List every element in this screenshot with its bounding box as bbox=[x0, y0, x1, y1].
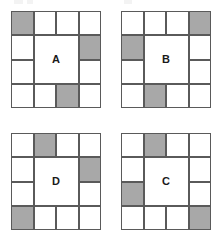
square-d-cell-r1c3-empty[interactable] bbox=[56, 133, 79, 157]
square-c-cell-r3c1-shaded[interactable] bbox=[121, 182, 144, 206]
square-c-cell-r1c3-empty[interactable] bbox=[166, 133, 189, 157]
square-b-label: B bbox=[162, 54, 170, 65]
square-panel-grid: ABDC bbox=[0, 0, 221, 244]
square-c-cell-r1c2-shaded[interactable] bbox=[144, 133, 167, 157]
figure-root: ABDC bbox=[0, 0, 221, 244]
square-b-cell-r3c1-empty[interactable] bbox=[121, 60, 144, 84]
square-b-cell-r3c4-empty[interactable] bbox=[189, 60, 212, 84]
square-a-cell-r1c4-empty[interactable] bbox=[79, 11, 102, 35]
square-b-cell-r2c4-empty[interactable] bbox=[189, 35, 212, 59]
square-c-label: C bbox=[162, 176, 170, 187]
square-b-center-block[interactable]: B bbox=[144, 35, 189, 84]
square-b-cell-r4c4-empty[interactable] bbox=[189, 84, 212, 108]
square-d-cell-r2c1-empty[interactable] bbox=[11, 157, 34, 181]
square-c-cell-r4c1-empty[interactable] bbox=[121, 206, 144, 230]
square-a-label: A bbox=[52, 54, 60, 65]
square-d-cell-r4c1-shaded[interactable] bbox=[11, 206, 34, 230]
square-a-cell-r2c4-shaded[interactable] bbox=[79, 35, 102, 59]
square-a-cell-r4c2-empty[interactable] bbox=[34, 84, 57, 108]
square-b-cell-r1c4-shaded[interactable] bbox=[189, 11, 212, 35]
square-b-cell-r1c2-empty[interactable] bbox=[144, 11, 167, 35]
square-d-cell-r1c4-empty[interactable] bbox=[79, 133, 102, 157]
square-d-cell-r3c1-empty[interactable] bbox=[11, 182, 34, 206]
square-d-center-block[interactable]: D bbox=[34, 157, 79, 206]
square-a[interactable]: A bbox=[11, 11, 101, 108]
square-c[interactable]: C bbox=[121, 133, 211, 230]
square-a-cell-r2c1-empty[interactable] bbox=[11, 35, 34, 59]
square-d-cell-r4c3-empty[interactable] bbox=[56, 206, 79, 230]
square-b-cell-r4c2-shaded[interactable] bbox=[144, 84, 167, 108]
square-b[interactable]: B bbox=[121, 11, 211, 108]
square-c-cell-r2c1-empty[interactable] bbox=[121, 157, 144, 181]
square-d-cell-r2c4-shaded[interactable] bbox=[79, 157, 102, 181]
square-a-cell-r1c3-empty[interactable] bbox=[56, 11, 79, 35]
square-d-cell-r4c4-empty[interactable] bbox=[79, 206, 102, 230]
square-a-cell-r1c2-empty[interactable] bbox=[34, 11, 57, 35]
square-d-cell-r1c2-shaded[interactable] bbox=[34, 133, 57, 157]
square-a-center-block[interactable]: A bbox=[34, 35, 79, 84]
square-c-center-block[interactable]: C bbox=[144, 157, 189, 206]
square-d-cell-r1c1-empty[interactable] bbox=[11, 133, 34, 157]
square-d-label: D bbox=[52, 176, 60, 187]
square-a-cell-r4c1-empty[interactable] bbox=[11, 84, 34, 108]
square-d-cell-r4c2-empty[interactable] bbox=[34, 206, 57, 230]
square-a-cell-r4c4-empty[interactable] bbox=[79, 84, 102, 108]
square-a-cell-r1c1-shaded[interactable] bbox=[11, 11, 34, 35]
square-d-cell-r3c4-empty[interactable] bbox=[79, 182, 102, 206]
square-c-cell-r2c4-empty[interactable] bbox=[189, 157, 212, 181]
square-a-cell-r3c1-empty[interactable] bbox=[11, 60, 34, 84]
square-c-cell-r4c3-empty[interactable] bbox=[166, 206, 189, 230]
square-c-cell-r4c2-empty[interactable] bbox=[144, 206, 167, 230]
square-a-cell-r4c3-shaded[interactable] bbox=[56, 84, 79, 108]
square-c-cell-r4c4-shaded[interactable] bbox=[189, 206, 212, 230]
square-a-cell-r3c4-empty[interactable] bbox=[79, 60, 102, 84]
square-b-cell-r4c1-empty[interactable] bbox=[121, 84, 144, 108]
square-c-cell-r1c4-empty[interactable] bbox=[189, 133, 212, 157]
square-c-cell-r1c1-empty[interactable] bbox=[121, 133, 144, 157]
square-c-cell-r3c4-empty[interactable] bbox=[189, 182, 212, 206]
square-b-cell-r4c3-empty[interactable] bbox=[166, 84, 189, 108]
square-b-cell-r1c1-empty[interactable] bbox=[121, 11, 144, 35]
square-b-cell-r2c1-shaded[interactable] bbox=[121, 35, 144, 59]
square-b-cell-r1c3-empty[interactable] bbox=[166, 11, 189, 35]
square-d[interactable]: D bbox=[11, 133, 101, 230]
